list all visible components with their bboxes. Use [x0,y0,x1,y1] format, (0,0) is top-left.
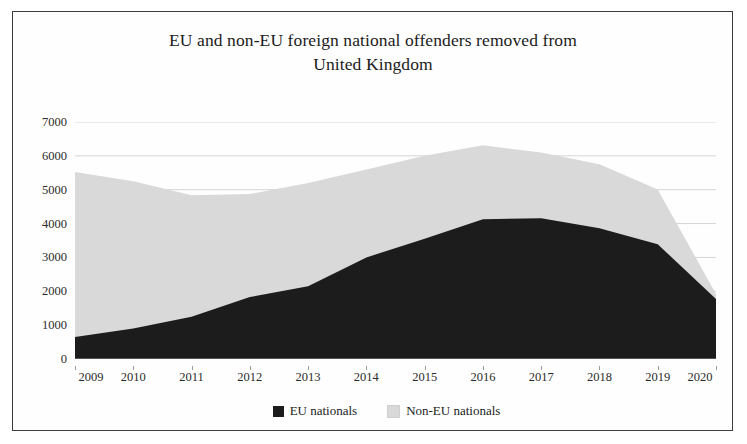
x-axis-tick [250,366,251,370]
y-axis: 01000200030004000500060007000 [21,122,67,359]
y-axis-tick-label: 0 [21,352,67,367]
y-axis-tick-label: 3000 [21,250,67,265]
x-axis-tick [308,366,309,370]
x-axis: 2009201020112012201320142015201620172018… [75,366,716,388]
x-axis-tick-label: 2015 [412,370,437,385]
x-axis-tick-label: 2013 [296,370,321,385]
chart-frame: EU and non-EU foreign national offenders… [12,11,733,431]
x-axis-tick-label: 2018 [587,370,612,385]
y-axis-tick-label: 7000 [21,115,67,130]
area-chart-svg [75,122,716,359]
x-axis-tick-label: 2009 [79,370,104,385]
legend-label: Non-EU nationals [406,403,500,419]
legend-item[interactable]: EU nationals [273,403,358,419]
x-axis-tick-label: 2010 [121,370,146,385]
y-axis-tick-label: 5000 [21,182,67,197]
x-axis-tick-label: 2011 [179,370,204,385]
x-axis-tick-label: 2017 [529,370,554,385]
y-axis-tick-label: 4000 [21,216,67,231]
x-axis-tick [599,366,600,370]
legend-label: EU nationals [290,403,358,419]
x-axis-tick [483,366,484,370]
y-axis-tick-label: 1000 [21,318,67,333]
legend-swatch-eu-nationals [273,406,284,417]
chart-title: EU and non-EU foreign national offenders… [73,28,673,76]
chart-legend: EU nationalsNon-EU nationals [13,403,747,419]
x-axis-tick [425,366,426,370]
x-axis-tick-label: 2012 [237,370,262,385]
x-axis-tick [658,366,659,370]
x-axis-tick [133,366,134,370]
x-axis-tick [716,366,717,370]
x-axis-tick-label: 2014 [354,370,379,385]
y-axis-tick-label: 6000 [21,148,67,163]
x-axis-tick [366,366,367,370]
legend-swatch-non-eu-nationals [387,405,400,418]
chart-title-line-1: EU and non-EU foreign national offenders… [73,28,673,52]
plot-area [75,122,716,359]
x-axis-tick-label: 2016 [470,370,495,385]
x-axis-tick [541,366,542,370]
y-axis-tick-label: 2000 [21,284,67,299]
x-axis-tick [192,366,193,370]
legend-item[interactable]: Non-EU nationals [387,403,500,419]
chart-title-line-2: United Kingdom [73,52,673,76]
x-axis-tick-label: 2020 [688,370,713,385]
x-axis-tick [75,366,76,370]
x-axis-tick-label: 2019 [645,370,670,385]
